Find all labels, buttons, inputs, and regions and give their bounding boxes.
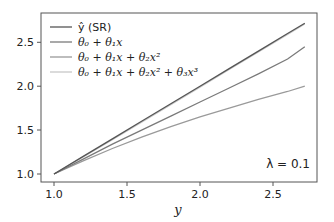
x-tick-label: 1.5 xyxy=(118,188,136,201)
legend-label: θ₀ + θ₁x + θ₂x² xyxy=(78,51,160,64)
y-tick-label: 2.5 xyxy=(17,36,35,49)
line-chart: 1.0 1.5 2.0 2.5 1.0 1.5 2.0 2.5 y ŷ (SR)… xyxy=(0,0,334,222)
y-tick-label: 1.5 xyxy=(17,124,35,137)
legend-label: θ₀ + θ₁x xyxy=(78,36,123,49)
y-tick-label: 1.0 xyxy=(17,168,35,181)
lambda-annotation: λ = 0.1 xyxy=(266,157,310,171)
x-tick-label: 1.0 xyxy=(45,188,63,201)
legend-label: ŷ (SR) xyxy=(78,21,111,34)
x-axis-label: y xyxy=(173,202,182,217)
legend-label: θ₀ + θ₁x + θ₂x² + θ₃x³ xyxy=(78,66,198,79)
x-tick-label: 2.0 xyxy=(191,188,209,201)
x-axis: 1.0 1.5 2.0 2.5 xyxy=(45,182,282,201)
y-axis: 1.0 1.5 2.0 2.5 xyxy=(17,36,42,181)
x-tick-label: 2.5 xyxy=(264,188,282,201)
y-tick-label: 2.0 xyxy=(17,80,35,93)
